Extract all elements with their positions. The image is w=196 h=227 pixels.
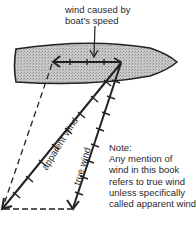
note-line: unless specifically [109, 187, 196, 198]
note-line: called apparent wind [109, 198, 196, 209]
dashed-construction-line-left [3, 64, 52, 207]
note-line: Any mention of [109, 153, 196, 164]
note-heading: Note: [109, 142, 196, 153]
note-line: refers to true wind [109, 176, 196, 187]
boat-hull [15, 43, 178, 83]
boat-speed-wind-label: wind caused by boat's speed [65, 4, 130, 26]
note-line: wind in this book [109, 164, 196, 175]
boat-speed-wind-label-line1: wind caused by [65, 4, 130, 15]
label-pointer-arrow [90, 26, 98, 57]
boat-speed-wind-label-line2: boat's speed [65, 15, 130, 26]
note-block: Note: Any mention of wind in this book r… [109, 142, 196, 209]
